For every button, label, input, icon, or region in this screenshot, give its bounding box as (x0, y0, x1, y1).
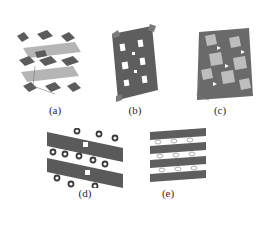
crystal-structure-b-graphic (110, 24, 160, 102)
panel-b-label: (b) (129, 104, 142, 116)
panel-e-structure (148, 126, 208, 186)
crystal-structure-a-graphic (15, 30, 85, 98)
panel-c-structure (195, 26, 255, 104)
panel-b-structure (110, 24, 160, 102)
panel-a-label: (a) (49, 104, 61, 116)
crystal-structure-e-graphic (148, 126, 208, 186)
panel-d-label: (d) (79, 187, 92, 199)
crystal-structure-d-graphic (45, 128, 125, 188)
panel-a-structure (15, 30, 85, 98)
panel-c-label: (c) (214, 104, 226, 116)
crystal-structure-c-graphic (195, 26, 255, 104)
panel-e-label: (e) (162, 187, 174, 199)
panel-d-structure (45, 128, 125, 188)
